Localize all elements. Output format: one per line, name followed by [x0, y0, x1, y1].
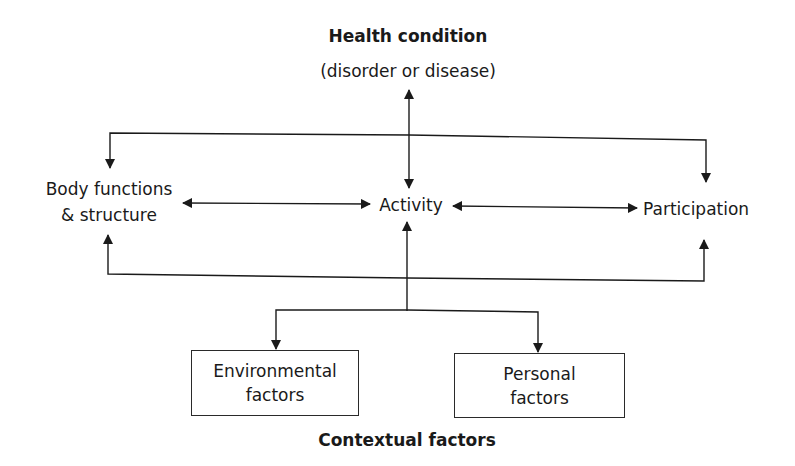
top-bracket-to-participation	[409, 135, 706, 182]
health-condition-title: Health condition	[329, 24, 488, 48]
participation-label: Participation	[643, 197, 749, 221]
environmental-factors-line1: Environmental	[213, 359, 337, 383]
environmental-factors-line2: factors	[246, 383, 305, 407]
personal-factors-box: Personal factors	[454, 353, 625, 418]
branch-to-environmental	[276, 310, 407, 349]
personal-factors-line1: Personal	[503, 362, 575, 386]
activity-label: Activity	[379, 193, 443, 217]
branch-to-personal	[407, 310, 538, 352]
bottom-bracket-to-body	[108, 235, 407, 278]
activity-participation-arrow	[453, 206, 637, 208]
bottom-bracket-to-participation	[407, 240, 704, 281]
environmental-factors-box: Environmental factors	[191, 350, 359, 416]
contextual-factors-label: Contextual factors	[318, 428, 496, 452]
top-bracket-to-body	[110, 133, 409, 168]
personal-factors-line2: factors	[510, 386, 569, 410]
icf-diagram: Health condition (disorder or disease) B…	[0, 0, 795, 466]
body-structure-label: & structure	[61, 203, 157, 227]
body-activity-arrow	[183, 203, 370, 204]
health-condition-subtitle: (disorder or disease)	[320, 59, 496, 83]
body-functions-label: Body functions	[46, 177, 173, 201]
